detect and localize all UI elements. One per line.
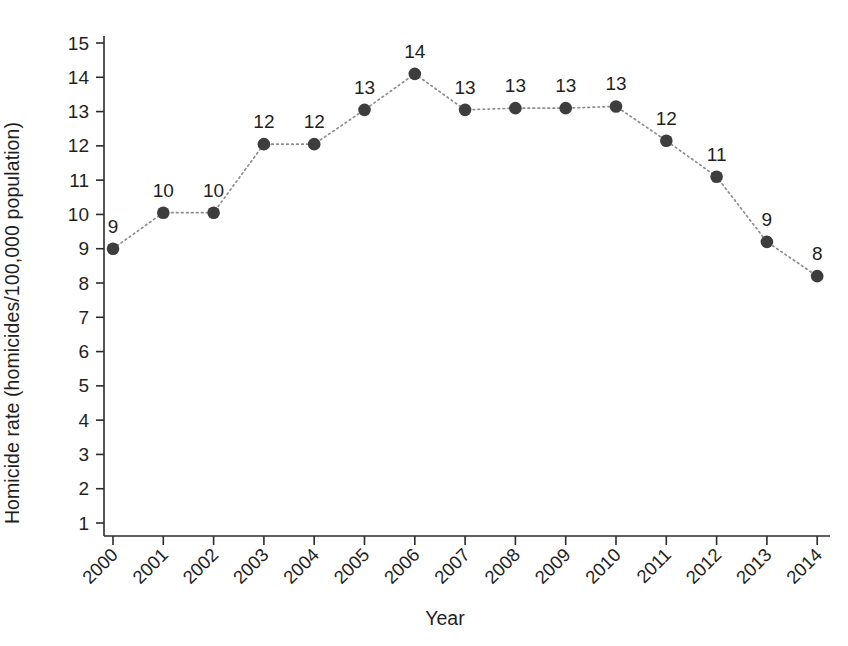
x-tick-label: 2007 <box>430 544 474 588</box>
data-point-marker <box>358 104 371 117</box>
data-point-label: 14 <box>404 41 426 62</box>
data-point-marker <box>308 138 321 151</box>
data-point-markers <box>107 68 824 283</box>
data-point-label: 12 <box>304 111 325 132</box>
y-tick-label: 1 <box>78 513 89 534</box>
line-chart-plot: 123456789101112131415 200020012002200320… <box>0 0 848 646</box>
x-axis-ticks: 2000200120022003200420052006200720082009… <box>78 536 826 588</box>
data-point-label: 13 <box>605 73 626 94</box>
x-tick-label: 2008 <box>480 544 524 588</box>
y-tick-label: 15 <box>68 33 89 54</box>
x-tick-label: 2004 <box>279 544 323 588</box>
chart-figure: Homicide rate (homicides/100,000 populat… <box>0 0 848 646</box>
data-point-marker <box>811 270 824 283</box>
y-tick-label: 4 <box>78 410 89 431</box>
data-point-marker <box>610 100 623 113</box>
data-point-label: 12 <box>656 108 677 129</box>
x-tick-label: 2005 <box>329 544 373 588</box>
y-tick-label: 5 <box>78 375 89 396</box>
x-tick-label: 2012 <box>681 544 725 588</box>
x-axis-title: Year <box>0 607 848 630</box>
y-tick-label: 9 <box>78 238 89 259</box>
data-point-marker <box>559 102 572 115</box>
data-point-label: 9 <box>108 216 119 237</box>
x-tick-label: 2002 <box>178 544 222 588</box>
data-point-marker <box>761 236 774 249</box>
y-tick-label: 12 <box>68 135 89 156</box>
data-point-marker <box>710 170 723 183</box>
x-axis: 2000200120022003200420052006200720082009… <box>78 536 830 588</box>
data-point-label: 13 <box>555 75 576 96</box>
y-tick-label: 14 <box>68 67 90 88</box>
y-tick-label: 7 <box>78 307 89 328</box>
y-axis-ticks: 123456789101112131415 <box>68 33 104 534</box>
x-tick-label: 2013 <box>732 544 776 588</box>
y-tick-label: 3 <box>78 444 89 465</box>
data-point-marker <box>207 206 220 219</box>
y-tick-label: 10 <box>68 204 89 225</box>
y-axis: 123456789101112131415 <box>68 33 104 537</box>
data-point-marker <box>509 102 522 115</box>
x-tick-label: 2000 <box>78 544 122 588</box>
data-point-label: 9 <box>762 209 773 230</box>
x-tick-label: 2011 <box>632 544 675 587</box>
data-point-label: 10 <box>153 180 174 201</box>
y-tick-label: 2 <box>78 478 89 499</box>
data-point-label: 11 <box>707 144 727 165</box>
data-point-marker <box>459 104 472 117</box>
data-point-marker <box>660 134 673 147</box>
y-tick-label: 13 <box>68 101 89 122</box>
data-point-marker <box>258 138 271 151</box>
data-point-marker <box>157 206 170 219</box>
x-tick-label: 2014 <box>782 544 826 588</box>
data-point-label: 12 <box>253 111 274 132</box>
x-tick-label: 2003 <box>229 544 273 588</box>
data-point-marker <box>409 68 422 81</box>
x-tick-label: 2006 <box>380 544 424 588</box>
y-tick-label: 11 <box>69 170 89 191</box>
x-tick-label: 2010 <box>581 544 625 588</box>
y-tick-label: 8 <box>78 273 89 294</box>
data-point-marker <box>107 242 120 255</box>
data-point-label: 13 <box>354 77 375 98</box>
data-point-label: 8 <box>812 243 823 264</box>
data-point-label: 13 <box>505 75 526 96</box>
y-tick-label: 6 <box>78 341 89 362</box>
data-point-label: 13 <box>455 77 476 98</box>
data-point-labels: 910101212131413131313121198 <box>108 41 823 264</box>
x-tick-label: 2001 <box>128 544 172 588</box>
data-point-label: 10 <box>203 180 224 201</box>
x-tick-label: 2009 <box>531 544 575 588</box>
